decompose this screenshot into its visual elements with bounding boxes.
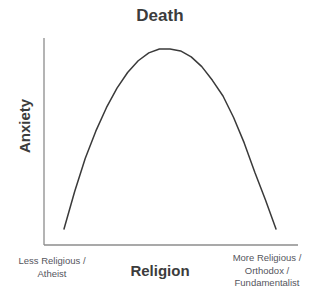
x-axis-label: Religion	[110, 261, 210, 280]
chart-figure: Death Anxiety Religion Less Religious / …	[0, 0, 320, 304]
x-axis-end-label: More Religious / Orthodox / Fundamentali…	[216, 252, 318, 290]
y-axis-label: Anxiety	[14, 46, 36, 206]
anxiety-curve-line	[64, 49, 276, 229]
y-axis-label-text: Anxiety	[14, 46, 36, 206]
x-axis-start-label: Less Religious / Atheist	[2, 255, 102, 280]
